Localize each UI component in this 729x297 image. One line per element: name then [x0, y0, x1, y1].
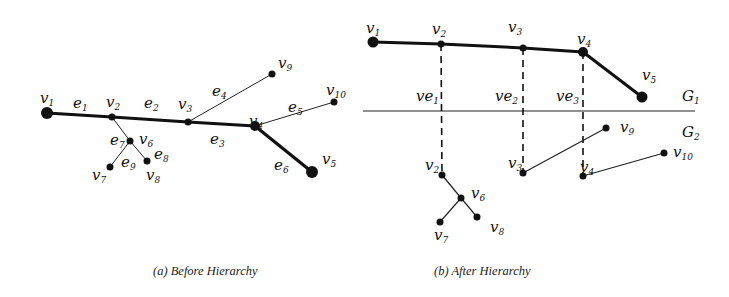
g2-label-v9: v9	[620, 118, 634, 137]
label-v10: v10	[326, 81, 346, 100]
label-ve1: ve1	[416, 87, 439, 106]
caption-panel-a: (a) Before Hierarchy	[153, 264, 258, 278]
edge-e4	[188, 74, 272, 122]
virtual-edge-ve1	[441, 44, 442, 175]
node-v6	[127, 138, 134, 145]
g1-node-v3	[520, 45, 527, 52]
label-e2: e2	[144, 94, 159, 113]
g2-label-v2: v2	[425, 156, 439, 175]
g2-node-v10	[661, 150, 668, 157]
label-v9: v9	[278, 54, 292, 73]
edge-e1	[47, 113, 112, 117]
caption-panel-b: (b) After Hierarchy	[434, 264, 531, 278]
g1-edge-v1-v2	[373, 42, 441, 44]
node-v8	[144, 158, 151, 165]
layer-label-g2: G2	[682, 123, 700, 142]
g1-node-v5	[637, 92, 648, 103]
node-v1	[41, 107, 53, 119]
g2-edge-v2-v6	[442, 175, 461, 198]
g2-label-v6: v6	[471, 184, 485, 203]
g2-label-v8: v8	[490, 218, 504, 237]
label-e3: e3	[210, 130, 225, 149]
hierarchy-figure: v1 v2 v3 v4 v5 v6 v7 v8 v9 v10 e1 e2 e3 …	[0, 0, 729, 297]
label-e1: e1	[73, 94, 88, 113]
label-e8: e8	[154, 145, 169, 164]
g1-node-v1	[368, 37, 379, 48]
label-e9: e9	[121, 153, 136, 172]
g2-edge-v4-v10	[583, 153, 664, 176]
label-v7: v7	[92, 166, 106, 185]
g1-node-v2	[438, 41, 445, 48]
layer-label-g1: G1	[682, 87, 700, 106]
g1-label-v4: v4	[577, 30, 591, 49]
panel-after-hierarchy: v1 v2 v3 v4 v5 ve1 ve2 ve3 G1 G2 v2 v3 v…	[363, 18, 700, 245]
node-v2	[109, 114, 116, 121]
g2-node-v9	[603, 125, 610, 132]
g2-node-v6	[458, 195, 465, 202]
g2-label-v7: v7	[434, 226, 448, 245]
label-v3: v3	[178, 95, 192, 114]
g1-edge-v3-v4	[523, 48, 583, 52]
label-v2: v2	[106, 93, 120, 112]
g2-label-v3: v3	[508, 154, 522, 173]
g1-edge-v2-v3	[441, 44, 523, 48]
label-v5: v5	[322, 150, 336, 169]
label-ve2: ve2	[495, 87, 518, 106]
g2-label-v4: v4	[580, 158, 594, 177]
label-v1: v1	[40, 89, 54, 108]
g1-label-v5: v5	[642, 66, 656, 85]
g2-node-v2	[439, 172, 446, 179]
label-v4: v4	[249, 112, 263, 131]
edge-e2	[112, 117, 188, 122]
label-v6: v6	[139, 130, 153, 149]
edge-e3	[188, 122, 255, 126]
g1-label-v1: v1	[366, 19, 380, 38]
g1-edge-v4-v5	[583, 52, 642, 97]
label-v8: v8	[146, 166, 160, 185]
node-v3	[185, 119, 192, 126]
g2-edge-v6-v7	[440, 198, 461, 222]
panel-before-hierarchy: v1 v2 v3 v4 v5 v6 v7 v8 v9 v10 e1 e2 e3 …	[40, 54, 346, 185]
node-v9	[269, 71, 276, 78]
g1-label-v3: v3	[508, 18, 522, 37]
node-v7	[107, 164, 114, 171]
g2-node-v7	[437, 219, 444, 226]
g2-node-v8	[474, 214, 481, 221]
label-e4: e4	[212, 82, 227, 101]
label-e5: e5	[288, 98, 303, 117]
label-e6: e6	[274, 156, 289, 175]
node-v5	[306, 166, 318, 178]
label-ve3: ve3	[556, 87, 579, 106]
g1-label-v2: v2	[432, 20, 446, 39]
label-e7: e7	[110, 131, 125, 150]
g2-label-v10: v10	[673, 143, 693, 162]
